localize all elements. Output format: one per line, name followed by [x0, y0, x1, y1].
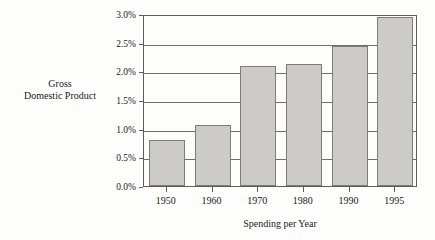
x-tick-label: 1990 — [325, 194, 373, 207]
y-tick-label: 2.5% — [96, 39, 136, 49]
bar — [149, 140, 185, 186]
bar — [377, 17, 413, 186]
x-tick-label: 1980 — [279, 194, 327, 207]
gridline — [144, 45, 416, 46]
bar — [332, 46, 368, 186]
x-tick-mark — [257, 187, 258, 192]
x-tick-mark — [303, 187, 304, 192]
bar — [240, 66, 276, 186]
x-tick-label: 1960 — [188, 194, 236, 207]
x-tick-mark — [212, 187, 213, 192]
x-axis-labels: 195019601970198019901995 — [143, 194, 417, 210]
gridline — [144, 131, 416, 132]
y-tick-label: 0.0% — [96, 182, 136, 192]
x-axis-ticks — [143, 187, 417, 193]
bar — [286, 64, 322, 186]
bar — [195, 125, 231, 186]
x-tick-mark — [394, 187, 395, 192]
x-tick-label: 1950 — [142, 194, 190, 207]
plot-area — [143, 15, 417, 187]
y-axis-ticks: 0.0%0.5%1.0%1.5%2.0%2.5%3.0% — [95, 15, 143, 187]
x-tick-mark — [349, 187, 350, 192]
gridline — [144, 73, 416, 74]
y-tick-label: 1.5% — [96, 96, 136, 106]
x-tick-label: 1970 — [233, 194, 281, 207]
x-axis-title: Spending per Year — [143, 218, 417, 230]
y-tick-label: 1.0% — [96, 125, 136, 135]
x-tick-label: 1995 — [370, 194, 418, 207]
y-tick-label: 2.0% — [96, 67, 136, 77]
chart-screenshot: Gross Domestic Product 0.0%0.5%1.0%1.5%2… — [0, 0, 435, 240]
y-tick-label: 0.5% — [96, 153, 136, 163]
gridline — [144, 102, 416, 103]
y-tick-label: 3.0% — [96, 10, 136, 20]
x-tick-mark — [166, 187, 167, 192]
